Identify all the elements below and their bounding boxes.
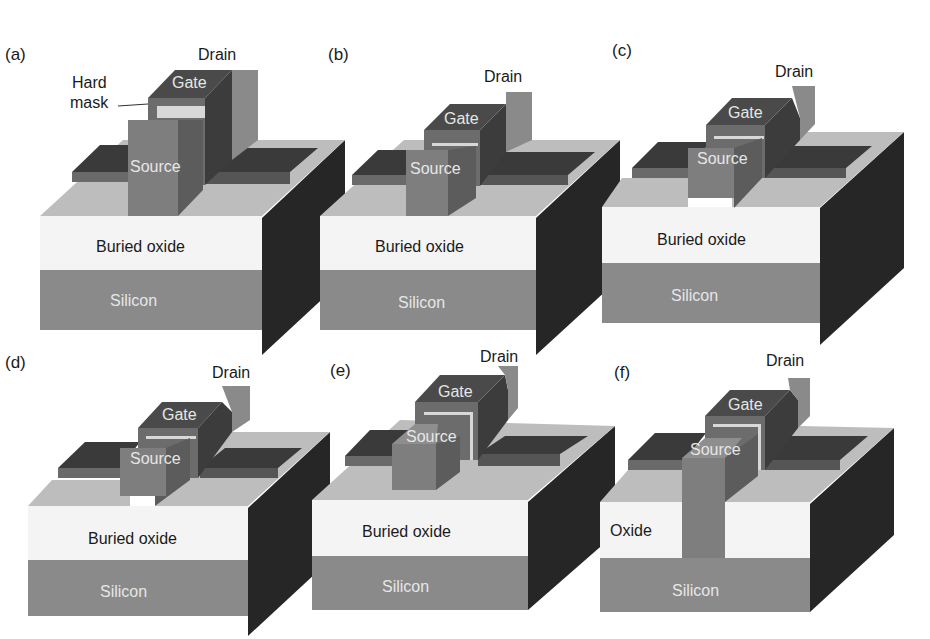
hard-mask bbox=[713, 424, 761, 427]
gate-label: Gate bbox=[162, 406, 197, 423]
drain-label: Drain bbox=[484, 68, 522, 85]
panel-tag: (c) bbox=[612, 41, 632, 60]
panel-c: (c) Drain Gate Source Buried oxide Silic… bbox=[600, 0, 930, 320]
hard-mask bbox=[424, 412, 472, 415]
source-label: Source bbox=[697, 150, 748, 167]
gate-label: Gate bbox=[438, 383, 473, 400]
hard-mask-label: mask bbox=[70, 94, 109, 111]
substrate-label: Silicon bbox=[110, 292, 157, 309]
drain-label: Drain bbox=[198, 46, 236, 63]
panel-f: (f) Drain Gate Source Oxide Silicon bbox=[600, 320, 930, 639]
oxide-label: Buried oxide bbox=[657, 231, 746, 248]
panel-b: (b) Drain Gate Source Buried oxide Silic… bbox=[300, 0, 610, 320]
source-label: Source bbox=[130, 450, 181, 467]
hard-mask bbox=[157, 106, 205, 118]
drain-label: Drain bbox=[212, 364, 250, 381]
drain-label: Drain bbox=[480, 348, 518, 365]
finfet-diagram-b: (b) Drain Gate Source Buried oxide Silic… bbox=[300, 0, 610, 320]
panel-tag: (a) bbox=[5, 45, 26, 64]
oxide-layer-right bbox=[725, 502, 810, 558]
drain-label: Drain bbox=[766, 352, 804, 369]
substrate-label: Silicon bbox=[382, 578, 429, 595]
drain-label: Drain bbox=[775, 63, 813, 80]
source-fin bbox=[392, 444, 436, 490]
finfet-diagram-a: (a) Drain Hard mask Gate Source Buried o… bbox=[0, 0, 310, 320]
finfet-diagram-e: (e) Drain Gate Source Buried oxide Silic… bbox=[300, 320, 630, 639]
finfet-diagram-f: (f) Drain Gate Source Oxide Silicon bbox=[600, 320, 930, 639]
panel-tag: (e) bbox=[330, 361, 351, 380]
finfet-diagram-c: (c) Drain Gate Source Buried oxide Silic… bbox=[600, 0, 930, 320]
panel-tag: (b) bbox=[328, 45, 349, 64]
panel-tag: (f) bbox=[614, 363, 630, 382]
oxide-label: Buried oxide bbox=[362, 523, 451, 540]
finfet-diagram-d: (d) Drain Gate Source Buried oxide Silic… bbox=[0, 320, 320, 639]
panel-a: (a) Drain Hard mask Gate Source Buried o… bbox=[0, 0, 310, 320]
hard-mask bbox=[432, 143, 478, 146]
substrate-label: Silicon bbox=[672, 582, 719, 599]
gate-label: Gate bbox=[728, 396, 763, 413]
oxide-label: Buried oxide bbox=[88, 530, 177, 547]
hard-mask bbox=[146, 436, 196, 439]
panel-e: (e) Drain Gate Source Buried oxide Silic… bbox=[300, 320, 630, 639]
oxide-label: Buried oxide bbox=[375, 238, 464, 255]
source-label: Source bbox=[690, 441, 741, 458]
source-fin-bulk bbox=[682, 458, 725, 558]
oxide-label: Oxide bbox=[610, 522, 652, 539]
hard-mask bbox=[714, 136, 764, 139]
oxide-label: Buried oxide bbox=[96, 238, 185, 255]
substrate-label: Silicon bbox=[671, 287, 718, 304]
substrate-label: Silicon bbox=[100, 583, 147, 600]
gate-label: Gate bbox=[444, 110, 479, 127]
panel-tag: (d) bbox=[5, 353, 26, 372]
source-label: Source bbox=[410, 160, 461, 177]
hard-mask-label: Hard bbox=[72, 74, 107, 91]
substrate-label: Silicon bbox=[398, 294, 445, 311]
gate-label: Gate bbox=[728, 104, 763, 121]
source-label: Source bbox=[130, 158, 181, 175]
source-label: Source bbox=[406, 428, 457, 445]
gate-label: Gate bbox=[172, 74, 207, 91]
panel-d: (d) Drain Gate Source Buried oxide Silic… bbox=[0, 320, 320, 639]
